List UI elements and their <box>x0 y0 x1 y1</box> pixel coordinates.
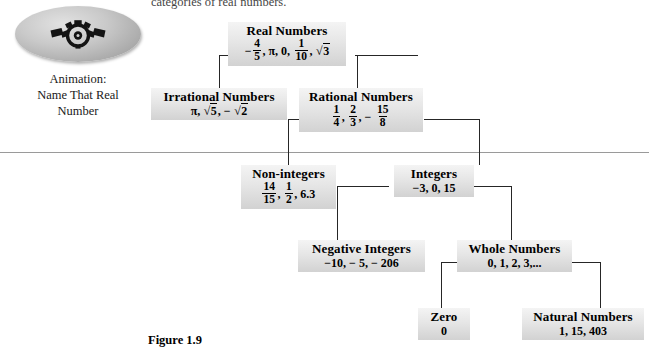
node-negative-integers-title: Negative Integers <box>307 242 416 256</box>
node-non-integers-title: Non-integers <box>250 167 327 181</box>
node-non-integers-items: 1415, 12, 6.3 <box>250 182 327 207</box>
node-irrational-numbers[interactable]: Irrational Numbers π, √5, − √2 <box>151 88 287 120</box>
node-zero[interactable]: Zero 0 <box>418 308 470 340</box>
node-zero-title: Zero <box>427 310 461 324</box>
edge-real-to-irrational-v <box>219 55 220 88</box>
node-irrational-numbers-title: Irrational Numbers <box>160 90 278 104</box>
animation-caption-line-1: Animation: <box>8 71 148 87</box>
animation-caption-line-3: Number <box>8 103 148 119</box>
node-integers-items: −3, 0, 15 <box>403 182 465 194</box>
edge-integers-to-whole-v <box>511 186 512 240</box>
node-real-numbers-title: Real Numbers <box>237 24 337 38</box>
node-whole-numbers-title: Whole Numbers <box>466 242 563 256</box>
animation-callout[interactable]: Animation: Name That Real Number <box>8 6 148 119</box>
edge-integers-to-negative-v <box>337 186 338 240</box>
edge-real-to-rational-h <box>355 55 418 56</box>
edge-rational-to-nonintegers-v <box>288 119 289 165</box>
node-real-numbers-items: −45, π, 0, 110, √3 <box>237 39 337 64</box>
animation-caption: Animation: Name That Real Number <box>8 71 148 119</box>
node-natural-numbers[interactable]: Natural Numbers 1, 15, 403 <box>522 308 644 340</box>
node-integers[interactable]: Integers −3, 0, 15 <box>394 165 474 197</box>
node-rational-numbers-title: Rational Numbers <box>308 90 414 104</box>
node-real-numbers[interactable]: Real Numbers −45, π, 0, 110, √3 <box>228 22 346 66</box>
node-negative-integers-items: −10, − 5, − 206 <box>307 257 416 269</box>
figure-caption: Figure 1.9 <box>148 333 202 348</box>
node-whole-numbers[interactable]: Whole Numbers 0, 1, 2, 3,... <box>457 240 572 272</box>
node-rational-numbers[interactable]: Rational Numbers 14, 23, − 158 <box>299 88 423 132</box>
edge-integers-to-negative-h <box>337 186 389 187</box>
animation-caption-line-2: Name That Real <box>8 87 148 103</box>
node-integers-title: Integers <box>403 167 465 181</box>
node-natural-numbers-items: 1, 15, 403 <box>531 325 635 337</box>
node-whole-numbers-items: 0, 1, 2, 3,... <box>466 257 563 269</box>
body-text-fragment: categories of real numbers. <box>151 0 286 10</box>
node-negative-integers[interactable]: Negative Integers −10, − 5, − 206 <box>298 240 425 272</box>
edge-rational-to-integers-v <box>479 119 480 165</box>
page-divider-rule <box>0 152 649 153</box>
node-irrational-numbers-items: π, √5, − √2 <box>160 105 278 117</box>
edge-real-to-rational-v <box>357 55 358 88</box>
node-rational-numbers-items: 14, 23, − 158 <box>308 105 414 130</box>
edge-rational-to-integers-h <box>424 119 480 120</box>
node-zero-items: 0 <box>427 325 461 337</box>
node-natural-numbers-title: Natural Numbers <box>531 310 635 324</box>
edge-whole-to-natural-v <box>600 262 601 308</box>
animation-badge-ellipse[interactable] <box>15 6 141 62</box>
edge-whole-to-zero-v <box>441 262 442 308</box>
node-non-integers[interactable]: Non-integers 1415, 12, 6.3 <box>241 165 336 209</box>
